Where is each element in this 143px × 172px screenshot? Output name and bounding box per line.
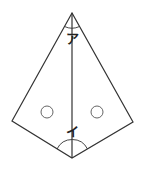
equal-angle-mark-left	[41, 106, 53, 118]
angle-label-i: イ	[66, 124, 79, 139]
angle-label-a: ア	[66, 31, 79, 46]
kite-diagram: ア イ	[0, 0, 143, 172]
equal-angle-mark-right	[91, 106, 103, 118]
